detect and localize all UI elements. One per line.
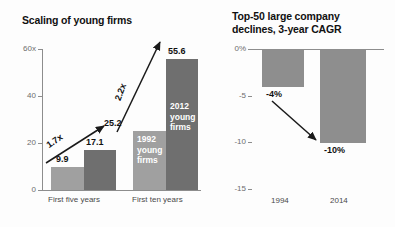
value-label-25-2: 25.2: [104, 118, 122, 128]
value-label-9-9: 9.9: [56, 154, 69, 164]
value-label-17-1: 17.1: [86, 137, 104, 147]
right-xtick-label-2014: 2014: [330, 196, 348, 205]
series-label-2012-young-firms: 2012 young firms: [170, 101, 196, 133]
left-xtick-label-first-ten-years: First ten years: [132, 195, 183, 204]
bar-2014-decline: [320, 50, 366, 143]
bar-first-five-years-2012: [84, 150, 116, 190]
bar-1994-decline: [262, 50, 304, 87]
value-label-minus-4-percent: -4%: [266, 89, 282, 99]
value-label-minus-10-percent: -10%: [324, 145, 345, 155]
left-ytick-label-60: 60x: [14, 44, 36, 53]
right-ytick-label-m10: -10: [224, 137, 246, 146]
right-ytick-mark-0: [248, 49, 252, 50]
left-ytick-mark-20: [38, 143, 42, 144]
chart-panel-left: Scaling of young firms 60x 40 20 0 9.9 1…: [0, 0, 210, 227]
right-xtick-label-1994: 1994: [271, 196, 289, 205]
left-xtick-label-first-five-years: First five years: [48, 195, 100, 204]
series-label-1992-young-firms: 1992 young firms: [137, 134, 163, 166]
right-ytick-label-m5: -5: [224, 91, 246, 100]
left-ytick-label-0: 0: [14, 185, 36, 194]
right-ytick-label-m15: -15: [224, 184, 246, 193]
value-label-55-6: 55.6: [168, 46, 186, 56]
left-ytick-label-40: 40: [14, 91, 36, 100]
left-ytick-mark-60: [38, 49, 42, 50]
left-chart-title: Scaling of young firms: [22, 14, 132, 27]
bar-first-five-years-1992: [51, 167, 84, 190]
left-ytick-mark-0: [38, 190, 42, 191]
left-ytick-label-20: 20: [14, 138, 36, 147]
right-ytick-mark-m5: [248, 96, 252, 97]
right-ytick-mark-m10: [248, 142, 252, 143]
left-ytick-mark-40: [38, 96, 42, 97]
figure-canvas: Scaling of young firms 60x 40 20 0 9.9 1…: [0, 0, 395, 227]
right-chart-title: Top-50 large company declines, 3-year CA…: [232, 10, 341, 35]
right-ytick-label-0: 0%: [224, 44, 246, 53]
right-ytick-mark-m15: [248, 189, 252, 190]
